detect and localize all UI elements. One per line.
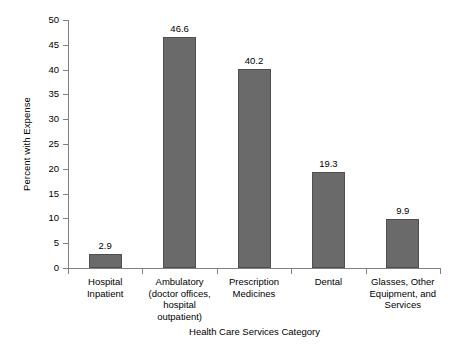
x-axis-category-label: Glasses, Other Equipment, and Services: [360, 276, 446, 311]
bar-value-label: 9.9: [373, 205, 433, 216]
y-axis-line: [68, 20, 69, 269]
x-axis-tick: [366, 269, 367, 274]
bar-chart: Percent with Expense 0510152025303540455…: [0, 0, 455, 346]
bar-value-label: 2.9: [75, 240, 135, 251]
x-axis-tick: [68, 269, 69, 274]
bar: [163, 37, 196, 268]
y-axis-tick-label: 45: [36, 40, 59, 50]
x-axis-line: [68, 268, 441, 269]
x-axis-tick: [142, 269, 143, 274]
y-axis-tick: [63, 119, 68, 120]
bar-value-label: 46.6: [150, 23, 210, 34]
y-axis-tick-label: 10: [36, 213, 59, 223]
y-axis-tick-label: 25: [36, 139, 59, 149]
y-axis-tick: [63, 243, 68, 244]
y-axis-tick: [63, 20, 68, 21]
y-axis-tick: [63, 194, 68, 195]
y-axis-tick-label: 40: [36, 65, 59, 75]
y-axis-tick-label: 35: [36, 89, 59, 99]
bar: [238, 69, 271, 268]
y-axis-tick-label: 50: [36, 15, 59, 25]
y-axis-tick-label: 15: [36, 189, 59, 199]
y-axis-tick-label: 0: [36, 263, 59, 273]
y-axis-tick-label: 5: [36, 238, 59, 248]
bar-value-label: 40.2: [224, 55, 284, 66]
y-axis-tick-label: 20: [36, 164, 59, 174]
y-axis-tick: [63, 94, 68, 95]
bar: [312, 172, 345, 268]
y-axis-tick: [63, 70, 68, 71]
y-axis-tick: [63, 144, 68, 145]
y-axis-tick: [63, 169, 68, 170]
bar-value-label: 19.3: [298, 158, 358, 169]
x-axis-title: Health Care Services Category: [68, 326, 441, 338]
y-axis-tick-label: 30: [36, 114, 59, 124]
y-axis-tick: [63, 45, 68, 46]
bar: [89, 254, 122, 268]
y-axis-title: Percent with Expense: [20, 20, 34, 268]
x-axis-tick: [440, 269, 441, 274]
x-axis-tick: [291, 269, 292, 274]
bar: [386, 219, 419, 268]
y-axis-tick: [63, 218, 68, 219]
x-axis-tick: [217, 269, 218, 274]
